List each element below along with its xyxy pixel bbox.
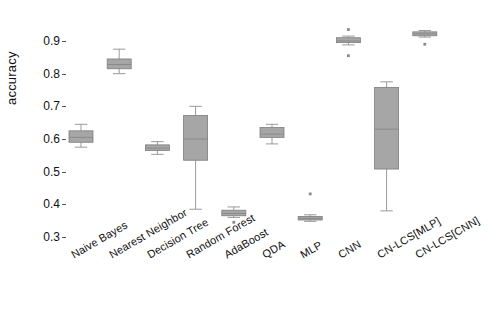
outlier-point (309, 192, 312, 195)
box-iqr (107, 59, 131, 69)
box-plot-group (298, 192, 322, 221)
box-plot-group (336, 28, 360, 57)
box-plot-canvas (0, 0, 493, 309)
box-plot-group (69, 124, 93, 147)
box-iqr (260, 128, 284, 138)
box-plot-group (375, 82, 399, 211)
box-plot-group (184, 106, 208, 209)
box-iqr (336, 38, 360, 43)
outlier-point (347, 54, 350, 57)
box-plot-group (145, 142, 169, 155)
box-plot-group (260, 124, 284, 144)
outlier-point (423, 43, 426, 46)
box-plot-group (107, 49, 131, 73)
box-plot-group (413, 31, 437, 46)
outlier-point (347, 28, 350, 31)
box-iqr (375, 87, 399, 169)
box-iqr (184, 115, 208, 160)
box-plot-figure: accuracy 0.30.40.50.60.70.80.9 Naive Bay… (0, 0, 493, 309)
box-iqr (69, 131, 93, 142)
